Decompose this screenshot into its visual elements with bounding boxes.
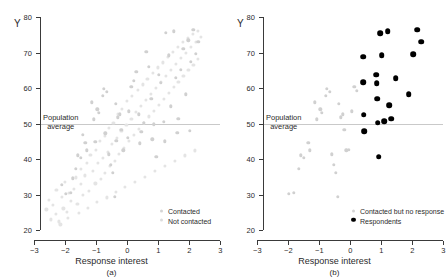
data-point [132,79,135,82]
data-point [169,68,172,71]
data-point [90,100,93,103]
data-point [194,52,197,55]
y-tick-label-50-b: 50 [239,120,255,129]
data-point [196,30,199,33]
data-point [95,201,98,204]
legend-item-no-response-b: Contacted but no response [351,207,444,217]
data-point [59,223,62,226]
data-point [174,62,177,65]
data-point [113,159,116,162]
data-point [162,97,165,100]
data-point [376,154,382,160]
data-point [184,93,187,96]
data-point [315,118,318,121]
x-tick-neg3-a [34,241,35,245]
data-point [182,74,185,77]
data-point [127,110,130,113]
legend-label-respondents-b: Respondents [360,218,401,225]
data-point [60,183,63,186]
data-point [116,115,119,118]
y-tick-80-a [36,17,40,18]
data-point [374,80,380,86]
data-point [164,74,167,77]
data-point [92,118,95,121]
data-point [179,57,182,60]
data-point [99,177,102,180]
data-point [140,104,143,107]
data-point [193,149,196,152]
x-tick-label-neg3-a: −3 [27,246,43,255]
data-point [54,212,57,215]
data-point [297,167,300,170]
y-tick-label-40-b: 40 [239,155,255,164]
data-point [381,119,387,125]
y-tick-label-40-a: 40 [16,155,32,164]
y-tick-label-50-a: 50 [16,120,32,129]
data-point [52,204,55,207]
data-point [74,167,77,170]
data-point [111,142,114,145]
x-tick-neg2-a [65,241,66,245]
data-point [161,61,164,64]
data-point [187,39,190,42]
data-point [130,94,133,97]
data-point [115,139,118,142]
x-tick-label-0-b: 0 [343,246,359,255]
data-point [67,216,70,219]
data-point [302,156,305,159]
data-point [111,171,114,174]
data-point [375,120,381,126]
data-point [85,161,88,164]
data-point [112,121,115,124]
data-point [388,116,394,122]
data-point [97,111,100,114]
data-point [287,192,290,195]
x-tick-label-1-b: 1 [374,246,390,255]
data-point [114,190,117,193]
data-point [81,194,84,197]
y-tick-20-b [259,230,263,231]
data-point [107,153,110,156]
data-point [125,123,128,126]
x-tick-neg2-b [288,241,289,245]
data-point [163,165,166,168]
data-point [71,176,74,179]
data-point [65,211,68,214]
x-tick-label-0-a: 0 [120,246,136,255]
data-point [183,154,186,157]
data-point [85,149,88,152]
y-tick-30-a [36,195,40,196]
x-tick-label-1-a: 1 [151,246,167,255]
legend-b: Contacted but no response Respondents [351,207,444,226]
data-point [386,102,392,108]
data-point [167,54,170,57]
data-point [153,169,156,172]
data-point [60,195,63,198]
x-tick-1-b [381,241,382,245]
data-point [176,131,179,134]
data-point [320,111,323,114]
data-point [164,31,167,34]
data-point [120,108,123,111]
data-point [187,69,190,72]
data-point [141,83,144,86]
legend-label-no-response-b: Contacted but no response [360,208,444,215]
x-tick-2-a [189,241,190,245]
data-point [171,50,174,53]
legend-swatch-black-dot-icon-b [351,218,355,222]
data-point [109,163,112,166]
data-point [143,175,146,178]
x-tick-1-a [158,241,159,245]
data-point [192,63,195,66]
data-point [313,100,316,103]
data-point [91,169,94,172]
x-tick-neg1-b [319,241,320,245]
data-point [114,102,117,105]
data-point [140,130,143,133]
data-point [101,94,104,97]
data-point [89,153,92,156]
x-tick-neg3-b [257,241,258,245]
data-point [339,115,342,118]
data-point [361,128,367,134]
x-tick-label-3-b: 3 [436,246,447,255]
